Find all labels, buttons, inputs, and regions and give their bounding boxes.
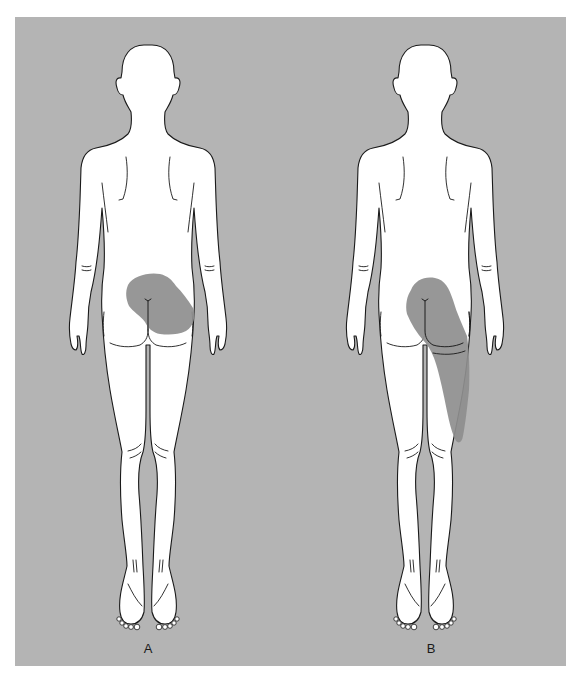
body-outline-a xyxy=(69,45,226,630)
figure-a xyxy=(69,45,226,630)
figure-b xyxy=(346,45,503,630)
figure-label-b: B xyxy=(421,641,441,656)
body-diagrams xyxy=(0,0,579,675)
figure-label-a: A xyxy=(138,641,158,656)
